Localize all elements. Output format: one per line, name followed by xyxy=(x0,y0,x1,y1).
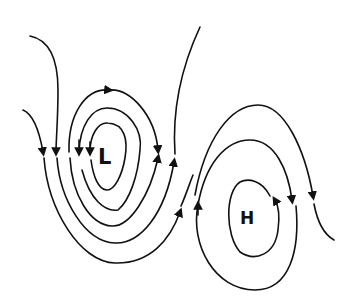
low-pressure-label: L xyxy=(98,145,111,169)
streamline xyxy=(23,110,43,152)
streamline-drawing: L H xyxy=(0,0,354,307)
high-system-lines xyxy=(195,105,334,290)
weather-diagram: L H xyxy=(0,0,354,307)
high-pressure-label: H xyxy=(240,208,254,228)
streamline xyxy=(30,36,58,152)
low-system-lines xyxy=(23,27,200,263)
